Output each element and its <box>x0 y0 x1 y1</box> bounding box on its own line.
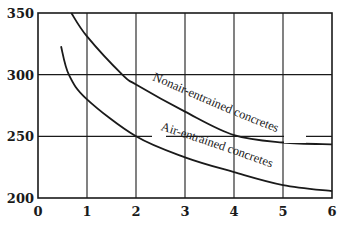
y-tick-label: 250 <box>7 129 34 144</box>
x-tick-label: 1 <box>82 204 91 219</box>
x-tick-label: 4 <box>229 204 238 219</box>
y-axis-ticks: 200250300350 <box>7 6 34 206</box>
y-tick-label: 200 <box>7 191 34 206</box>
x-tick-label: 5 <box>278 204 287 219</box>
x-tick-label: 3 <box>180 204 189 219</box>
x-tick-label: 6 <box>327 204 336 219</box>
grid-lines <box>38 13 332 198</box>
x-tick-label: 2 <box>131 204 140 219</box>
series-line-nonair <box>71 13 332 144</box>
y-tick-label: 300 <box>7 68 34 83</box>
y-tick-label: 350 <box>7 6 34 21</box>
label-bg-nonair <box>284 135 306 143</box>
x-axis-ticks: 0123456 <box>33 204 336 219</box>
chart: 200250300350 0123456 Nonair-entrained co… <box>0 0 343 226</box>
x-tick-label: 0 <box>33 204 42 219</box>
